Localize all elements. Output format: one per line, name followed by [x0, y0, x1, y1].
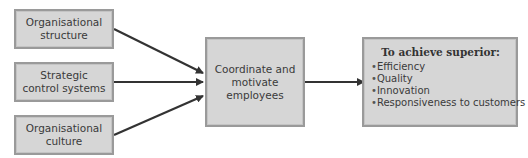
arrow-structure-to-center: [114, 29, 203, 73]
box-label-line: control systems: [22, 82, 105, 95]
arrow-culture-to-center: [114, 96, 203, 135]
box-label-line: Strategic: [40, 69, 87, 82]
outcome-title: To achieve superior:: [381, 46, 500, 58]
box-label-line: motivate: [232, 76, 279, 89]
box-outcomes: To achieve superior: Efficiency Quality …: [362, 37, 518, 127]
box-label-line: Coordinate and: [215, 63, 296, 76]
box-label-line: Organisational: [26, 16, 102, 29]
outcome-item: Quality: [371, 73, 525, 85]
outcome-item: Innovation: [371, 85, 525, 97]
box-label-line: structure: [40, 29, 88, 42]
box-label-line: employees: [226, 89, 283, 102]
outcome-item: Responsiveness to customers: [371, 97, 525, 109]
box-label-line: Organisational: [26, 122, 102, 135]
box-label-line: culture: [46, 135, 83, 148]
outcome-item: Efficiency: [371, 61, 525, 73]
box-coordinate-motivate: Coordinate and motivate employees: [205, 37, 305, 127]
box-organisational-culture: Organisational culture: [14, 115, 114, 155]
box-organisational-structure: Organisational structure: [14, 9, 114, 49]
outcome-list: Efficiency Quality Innovation Responsive…: [371, 61, 525, 109]
box-strategic-control-systems: Strategic control systems: [14, 62, 114, 102]
